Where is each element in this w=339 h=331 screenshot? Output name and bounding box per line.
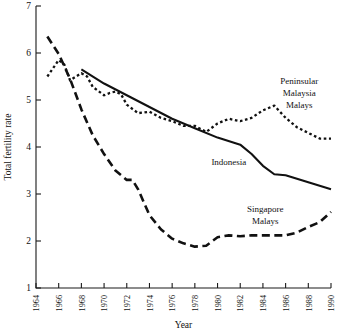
x-tick-label: 1980 — [214, 295, 223, 311]
fertility-rate-chart: 1234567196419661968197019721974197619781… — [0, 0, 339, 331]
x-tick-label: 1972 — [123, 295, 132, 311]
x-tick-label: 1988 — [305, 295, 314, 311]
x-tick-label: 1964 — [32, 295, 41, 311]
y-tick-label: 1 — [26, 283, 31, 293]
series-annotation: Malaysia — [283, 88, 316, 98]
x-tick-label: 1974 — [146, 295, 155, 311]
y-tick-label: 2 — [26, 236, 31, 246]
series-annotation: Malays — [252, 216, 279, 226]
x-tick-label: 1970 — [100, 295, 109, 311]
series-annotation: Peninsular — [280, 76, 318, 86]
x-tick-label: 1966 — [55, 295, 64, 311]
y-tick-label: 6 — [26, 48, 31, 58]
x-tick-label: 1976 — [168, 295, 177, 311]
series-annotation: Indonesia — [211, 157, 246, 167]
y-tick-label: 4 — [26, 142, 31, 152]
series-annotation: Singapore — [247, 204, 284, 214]
chart-canvas: 1234567196419661968197019721974197619781… — [0, 0, 339, 331]
x-axis-title: Year — [175, 320, 193, 330]
y-tick-label: 3 — [26, 189, 31, 199]
x-tick-label: 1984 — [259, 295, 268, 311]
x-tick-label: 1968 — [78, 295, 87, 311]
x-tick-label: 1978 — [191, 295, 200, 311]
x-tick-label: 1982 — [236, 295, 245, 311]
y-axis-title: Total fertility rate — [3, 114, 13, 181]
y-tick-label: 5 — [26, 95, 31, 105]
y-tick-label: 7 — [26, 1, 31, 11]
series-annotation: Malays — [286, 100, 313, 110]
series-line-singapore-malays — [47, 37, 331, 247]
axis-lines — [36, 6, 331, 288]
x-tick-label: 1986 — [282, 295, 291, 311]
x-tick-label: 1990 — [327, 295, 336, 311]
